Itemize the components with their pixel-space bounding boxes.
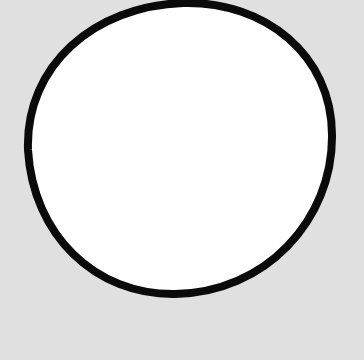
drawing-svg: [0, 0, 364, 360]
drawing-canvas: [0, 0, 364, 360]
hand-drawn-circle: [28, 3, 332, 294]
